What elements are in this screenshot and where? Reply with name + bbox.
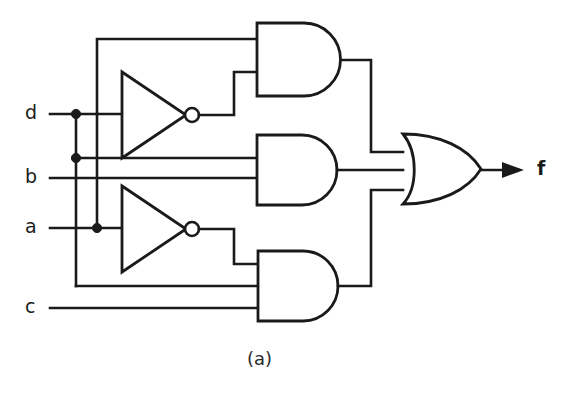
or-gate-body (403, 134, 481, 204)
circuit-schematic (0, 0, 572, 396)
and-gate-bottom-body (258, 251, 338, 321)
junction-dot-d-upper (71, 109, 80, 118)
and-gate-middle-body (257, 135, 337, 205)
figure-caption: (a) (247, 348, 272, 369)
logic-circuit-figure: d b a c f (a) (0, 0, 572, 396)
junction-dot-d-bus (71, 153, 80, 162)
input-label-c: c (25, 297, 35, 316)
wire-and-top-output (341, 60, 403, 152)
output-label-f: f (537, 159, 545, 178)
inverter-a-bubble (185, 222, 199, 236)
inverter-a-triangle (122, 186, 186, 272)
inverter-d-triangle (122, 72, 186, 158)
input-label-a: a (25, 217, 37, 236)
junction-dot-a-bus (92, 223, 101, 232)
inverter-d-bubble (185, 108, 199, 122)
and-gate-top-body (257, 23, 341, 96)
wire-and-bottom-output (338, 190, 403, 286)
wire-not-d-to-and-top (199, 72, 257, 115)
input-label-b: b (25, 167, 37, 186)
output-arrow-icon (502, 162, 524, 178)
wire-not-a-to-and-bottom (199, 229, 258, 264)
input-label-d: d (25, 103, 37, 122)
